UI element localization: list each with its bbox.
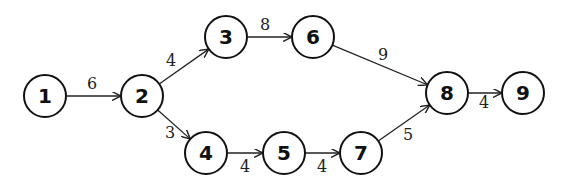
network-diagram: 643894454 123456789 [0, 0, 574, 185]
node-6: 6 [292, 16, 334, 58]
edge-weight-label: 3 [165, 123, 175, 142]
node-label: 8 [440, 81, 454, 105]
node-label: 3 [219, 25, 233, 49]
edge-weight-label: 4 [317, 157, 327, 176]
node-9: 9 [502, 72, 544, 114]
node-label: 1 [38, 84, 52, 108]
edge-weight-label: 6 [87, 74, 97, 93]
nodes-group: 123456789 [24, 16, 544, 174]
node-1: 1 [24, 75, 66, 117]
node-label: 7 [354, 141, 368, 165]
edge-weight-label: 4 [479, 93, 489, 112]
node-label: 4 [199, 141, 213, 165]
edge-weight-label: 4 [166, 51, 176, 70]
node-8: 8 [426, 72, 468, 114]
node-2: 2 [121, 75, 163, 117]
node-label: 9 [516, 81, 530, 105]
edge-weight-label: 5 [403, 125, 413, 144]
node-label: 6 [306, 25, 320, 49]
node-label: 2 [135, 84, 149, 108]
node-7: 7 [340, 132, 382, 174]
edge-weight-label: 4 [240, 157, 250, 176]
node-3: 3 [205, 16, 247, 58]
node-5: 5 [263, 132, 305, 174]
node-4: 4 [185, 132, 227, 174]
node-label: 5 [277, 141, 291, 165]
edge-weight-label: 9 [378, 45, 388, 64]
edge-weight-label: 8 [260, 15, 270, 34]
